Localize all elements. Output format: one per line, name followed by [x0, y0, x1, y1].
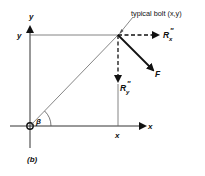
- force-rx-label: R x ″: [163, 27, 174, 42]
- y-axis-label: y: [28, 12, 34, 21]
- figure-caption: (b): [27, 155, 38, 164]
- svg-text:y: y: [125, 89, 130, 95]
- force-ry-label: R y ″: [120, 80, 131, 95]
- force-f-arrow: [118, 35, 153, 70]
- svg-text:″: ″: [127, 80, 131, 87]
- angle-arc: [45, 111, 51, 126]
- y-tick-label: y: [16, 31, 22, 40]
- bolt-annotation: typical bolt (x,y): [131, 9, 182, 18]
- bolt-force-diagram: y y x x typical bolt (x,y) β R x ″ R y ″…: [0, 0, 205, 176]
- force-f-label: F: [155, 69, 161, 79]
- svg-text:x: x: [168, 36, 173, 42]
- x-axis-label: x: [147, 122, 153, 131]
- radius-line: [30, 35, 118, 126]
- angle-beta-label: β: [35, 117, 41, 126]
- x-tick-label: x: [114, 131, 120, 140]
- svg-text:″: ″: [170, 27, 174, 34]
